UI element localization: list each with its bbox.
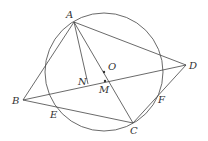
label-m: M bbox=[99, 85, 109, 95]
label-a: A bbox=[66, 10, 73, 20]
point-m bbox=[104, 80, 106, 82]
segment-ad bbox=[74, 22, 186, 65]
label-e: E bbox=[50, 110, 57, 120]
segment-bc bbox=[23, 100, 133, 123]
label-d: D bbox=[189, 61, 197, 71]
label-f: F bbox=[158, 95, 165, 105]
point-o bbox=[103, 71, 105, 73]
segment-an bbox=[74, 22, 88, 84]
label-o: O bbox=[108, 62, 116, 72]
label-n: N bbox=[78, 77, 87, 87]
segment-ab bbox=[23, 22, 74, 100]
label-b: B bbox=[12, 96, 19, 106]
label-c: C bbox=[130, 126, 138, 136]
geometry-diagram: A B C D E F N M O bbox=[0, 0, 208, 141]
diagram-canvas bbox=[0, 0, 208, 141]
